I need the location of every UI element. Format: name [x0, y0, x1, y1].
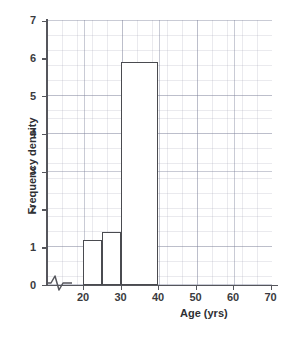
- y-axis-tick: [42, 247, 47, 248]
- y-axis-tick: [42, 134, 47, 135]
- histogram-bar: [102, 232, 121, 285]
- y-axis-tick-label: 6: [22, 53, 36, 64]
- plot-area: [47, 20, 272, 285]
- y-axis-tick-label: 0: [22, 280, 36, 291]
- y-axis-tick-label: 7: [22, 15, 36, 26]
- x-axis-tick-label: 60: [220, 292, 246, 303]
- x-axis-title: Age (yrs): [180, 307, 280, 319]
- x-axis-tick-label: 50: [183, 292, 209, 303]
- y-axis-title: Frequency density: [26, 86, 38, 246]
- x-axis-tick-label: 70: [258, 292, 284, 303]
- x-axis-tick-label: 40: [145, 292, 171, 303]
- histogram-bar: [121, 62, 159, 285]
- major-gridlines: [47, 20, 272, 285]
- histogram-bar: [83, 240, 102, 285]
- x-axis-tick: [233, 285, 234, 290]
- y-axis-tick: [42, 96, 47, 97]
- x-axis-line: [46, 285, 278, 287]
- x-axis-tick: [158, 285, 159, 290]
- x-axis-tick-label: 30: [108, 292, 134, 303]
- y-axis-tick: [42, 58, 47, 59]
- y-axis-tick: [42, 209, 47, 210]
- x-axis-tick: [271, 285, 272, 290]
- histogram-chart: 01234567 203040506070 Frequency density …: [0, 0, 290, 339]
- x-axis-tick: [196, 285, 197, 290]
- x-axis-tick: [83, 285, 84, 290]
- y-axis-tick: [42, 21, 47, 22]
- axis-break-icon: [46, 274, 72, 292]
- x-axis-tick-label: 20: [70, 292, 96, 303]
- y-axis-tick: [42, 172, 47, 173]
- x-axis-tick: [121, 285, 122, 290]
